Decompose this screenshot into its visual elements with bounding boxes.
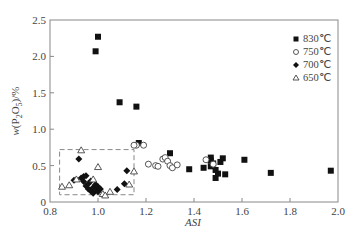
data-point [131, 142, 137, 148]
scatter-chart: 0.81.01.21.41.61.82.0 00.51.01.52.02.5 8… [0, 0, 359, 243]
legend-marker [293, 75, 299, 80]
data-point [66, 182, 73, 188]
x-tick-label: 1.2 [139, 205, 153, 217]
y-tick-label: 2.0 [32, 50, 46, 62]
data-point [145, 161, 151, 167]
data-point [220, 155, 226, 161]
legend-marker [294, 37, 299, 42]
y-axis-label: w(P2O5)/% [9, 87, 24, 136]
data-point [141, 142, 147, 148]
y-axis: 00.51.01.52.02.5 [32, 14, 54, 208]
data-point [133, 104, 139, 110]
data-point [75, 156, 82, 163]
y-tick-label: 0.5 [32, 160, 46, 172]
x-axis: 0.81.01.21.41.61.82.0 [43, 198, 345, 217]
data-point [210, 161, 216, 167]
legend-label: 700℃ [303, 59, 331, 70]
x-tick-label: 1.0 [91, 205, 105, 217]
y-tick-label: 2.5 [32, 14, 46, 26]
data-points [59, 34, 334, 198]
legend-marker [294, 50, 299, 55]
data-point [201, 165, 207, 171]
data-point [95, 164, 102, 170]
legend-marker [293, 62, 299, 68]
data-point [222, 171, 228, 177]
data-point [268, 170, 274, 176]
data-point [203, 157, 209, 163]
legend-label: 750℃ [303, 46, 331, 57]
data-point [123, 167, 130, 174]
y-tick-label: 1.5 [32, 87, 46, 99]
series-filled-diamond [71, 156, 131, 197]
data-point [117, 99, 123, 105]
x-tick-label: 2.0 [331, 205, 345, 217]
series-filled-square [93, 34, 334, 181]
data-point [328, 168, 334, 174]
legend-label: 650℃ [303, 72, 331, 83]
data-point [131, 168, 138, 174]
plot-frame [50, 20, 338, 202]
data-point [215, 171, 221, 177]
y-tick-label: 0 [41, 196, 47, 208]
data-point [186, 166, 192, 172]
data-point [155, 163, 161, 169]
data-point [95, 34, 101, 40]
legend: 830℃750℃700℃650℃ [293, 33, 331, 83]
data-point [241, 157, 247, 163]
y-tick-label: 1.0 [32, 123, 46, 135]
x-tick-label: 1.8 [283, 205, 297, 217]
data-point [93, 48, 99, 54]
legend-label: 830℃ [303, 33, 331, 44]
x-tick-label: 1.6 [235, 205, 249, 217]
data-point [167, 150, 173, 156]
x-axis-label: ASI [184, 216, 202, 228]
data-point [174, 162, 180, 168]
data-point [107, 188, 114, 194]
data-point [114, 186, 121, 193]
svg-text:w(P2O5)/%: w(P2O5)/% [9, 87, 24, 136]
